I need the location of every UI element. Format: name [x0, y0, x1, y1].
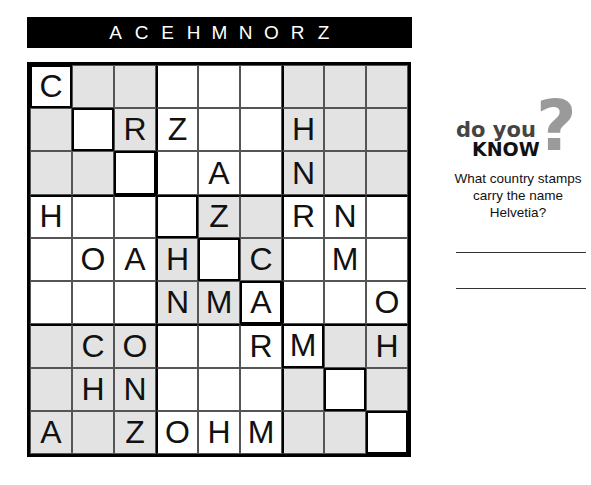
grid-cell[interactable]	[240, 195, 282, 238]
grid-cell[interactable]: C	[72, 324, 114, 367]
grid-cell[interactable]	[198, 108, 240, 151]
grid-cell[interactable]: R	[240, 324, 282, 367]
grid-cell[interactable]: O	[114, 324, 156, 367]
grid-cell[interactable]: M	[324, 238, 366, 281]
grid-cell[interactable]: A	[30, 411, 72, 454]
grid-cell[interactable]	[240, 368, 282, 411]
grid-cell[interactable]	[282, 238, 324, 281]
grid-cell[interactable]: R	[114, 108, 156, 151]
grid-cell[interactable]: C	[240, 238, 282, 281]
grid-cell[interactable]: O	[366, 281, 408, 324]
grid-cell[interactable]	[282, 281, 324, 324]
grid-cell[interactable]	[366, 238, 408, 281]
grid-cell[interactable]: O	[72, 238, 114, 281]
grid-cell[interactable]	[366, 151, 408, 194]
grid-cell[interactable]	[72, 151, 114, 194]
grid-cell[interactable]	[30, 151, 72, 194]
grid-cell[interactable]	[324, 281, 366, 324]
letter-bank-item: N	[233, 22, 259, 44]
trivia-question: What country stamps carry the name Helve…	[448, 170, 588, 221]
grid-cell[interactable]: C	[30, 65, 72, 108]
grid-cell[interactable]	[240, 151, 282, 194]
letter-bank-item: M	[207, 22, 233, 44]
grid-cell[interactable]	[30, 108, 72, 151]
grid-cell[interactable]	[240, 65, 282, 108]
grid-cell[interactable]: Z	[114, 411, 156, 454]
grid-cell[interactable]	[114, 65, 156, 108]
grid-cell[interactable]: A	[198, 151, 240, 194]
letter-bank-item: O	[259, 22, 285, 44]
grid-cell[interactable]	[324, 411, 366, 454]
grid-cell[interactable]: N	[156, 281, 198, 324]
grid-cell[interactable]	[198, 368, 240, 411]
grid-cell[interactable]: H	[30, 195, 72, 238]
grid-cell[interactable]: Z	[156, 108, 198, 151]
grid-cell[interactable]: A	[114, 238, 156, 281]
grid-cell[interactable]	[282, 411, 324, 454]
grid-cell[interactable]	[156, 368, 198, 411]
answer-line-1[interactable]	[456, 252, 586, 253]
grid-cell[interactable]	[366, 411, 408, 454]
letter-bank-item: C	[129, 22, 155, 44]
did-you-know-panel: ? do you KNOW What country stamps carry …	[448, 90, 588, 221]
grid-cell[interactable]	[324, 151, 366, 194]
grid-cell[interactable]: Z	[198, 195, 240, 238]
grid-cell[interactable]	[30, 368, 72, 411]
grid-cell[interactable]	[324, 108, 366, 151]
logo-know: KNOW	[472, 138, 540, 160]
grid-cell[interactable]: N	[324, 195, 366, 238]
grid-cell[interactable]	[114, 281, 156, 324]
grid-cell[interactable]: H	[198, 411, 240, 454]
letter-bank-item: E	[155, 22, 181, 44]
grid-cell[interactable]	[324, 65, 366, 108]
grid-cell[interactable]: H	[366, 324, 408, 367]
letter-bank-item: Z	[311, 22, 337, 44]
grid-cell[interactable]	[324, 324, 366, 367]
grid-cell[interactable]	[156, 65, 198, 108]
grid-cell[interactable]	[366, 65, 408, 108]
letter-bank-item: R	[285, 22, 311, 44]
grid-cell[interactable]	[240, 108, 282, 151]
grid-cell[interactable]	[114, 151, 156, 194]
do-you-know-logo: ? do you KNOW	[448, 90, 588, 160]
puzzle-grid: CRZHANHZRNOAHCMNMAOCORMHHNAZOHM	[27, 62, 411, 457]
grid-cell[interactable]: M	[240, 411, 282, 454]
grid-cell[interactable]	[282, 65, 324, 108]
grid-cell[interactable]: O	[156, 411, 198, 454]
letter-bank: ACEHMNORZ	[27, 17, 412, 48]
grid-cell[interactable]	[324, 368, 366, 411]
grid-cell[interactable]: M	[198, 281, 240, 324]
grid-cell[interactable]	[72, 411, 114, 454]
grid-cell[interactable]	[156, 324, 198, 367]
grid-cell[interactable]: M	[282, 324, 324, 367]
grid-cell[interactable]: H	[72, 368, 114, 411]
grid-cell[interactable]: A	[240, 281, 282, 324]
grid-cell[interactable]	[30, 324, 72, 367]
grid-cell[interactable]	[366, 108, 408, 151]
grid-cell[interactable]	[72, 65, 114, 108]
grid-cell[interactable]: R	[282, 195, 324, 238]
grid-cell[interactable]	[198, 324, 240, 367]
grid-cell[interactable]	[198, 238, 240, 281]
answer-line-2[interactable]	[456, 288, 586, 289]
grid-cell[interactable]	[366, 368, 408, 411]
grid-cell[interactable]	[156, 195, 198, 238]
grid-cell[interactable]	[114, 195, 156, 238]
grid-cell[interactable]	[282, 368, 324, 411]
grid-cell[interactable]: H	[156, 238, 198, 281]
grid-cell[interactable]	[72, 108, 114, 151]
grid-cell[interactable]	[72, 281, 114, 324]
question-mark-icon: ?	[536, 85, 577, 167]
grid-cell[interactable]	[366, 195, 408, 238]
grid-cell[interactable]	[30, 238, 72, 281]
grid-cell[interactable]: N	[114, 368, 156, 411]
letter-bank-item: H	[181, 22, 207, 44]
grid-cell[interactable]	[156, 151, 198, 194]
grid-cell[interactable]	[30, 281, 72, 324]
grid-cell[interactable]: N	[282, 151, 324, 194]
grid-cell[interactable]	[72, 195, 114, 238]
letter-bank-item: A	[103, 22, 129, 44]
grid-cell[interactable]	[198, 65, 240, 108]
grid-cell[interactable]: H	[282, 108, 324, 151]
